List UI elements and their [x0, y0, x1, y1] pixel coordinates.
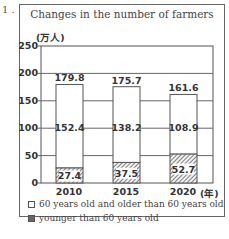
total-label: 161.6	[168, 82, 198, 93]
total-label: 179.8	[54, 72, 84, 83]
legend-item-younger: younger than 60 years old	[28, 213, 159, 223]
younger-value-label: 27.4	[58, 170, 82, 181]
total-label: 175.7	[111, 75, 141, 86]
legend-swatch-white-icon	[28, 201, 35, 208]
x-tick-2010: 2010	[49, 186, 89, 197]
younger-value-label: 52.7	[172, 164, 195, 175]
legend-item-older: 60 years old and older than 60 years old	[28, 199, 224, 209]
x-axis-unit: (年)	[200, 186, 219, 200]
younger-value-label: 37.5	[115, 168, 138, 179]
x-tick-2015: 2015	[106, 186, 146, 197]
older-value-label: 108.9	[168, 122, 198, 133]
legend-swatch-dark-icon	[28, 215, 35, 222]
x-tick-2020: 2020	[163, 186, 203, 197]
older-value-label: 152.4	[54, 122, 84, 133]
older-value-label: 138.2	[111, 122, 141, 133]
legend-label-older: 60 years old and older than 60 years old	[39, 199, 224, 209]
legend-label-younger: younger than 60 years old	[39, 213, 159, 223]
